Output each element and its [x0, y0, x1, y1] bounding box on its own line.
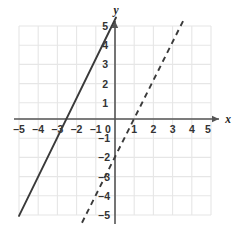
x-tick-label--4: –4 — [32, 123, 44, 135]
figure-background — [0, 0, 240, 232]
x-tick-label--5: –5 — [13, 123, 25, 135]
y-axis-label: y — [111, 4, 119, 17]
y-tick-label--4: –4 — [98, 190, 110, 202]
x-tick-label-1: 1 — [131, 123, 137, 135]
x-axis-label: x — [224, 113, 231, 125]
x-tick-label-5: 5 — [205, 123, 211, 135]
y-tick-label--2: –2 — [98, 151, 110, 163]
x-tick-label-4: 4 — [189, 123, 195, 135]
x-tick-label-2: 2 — [150, 123, 156, 135]
coordinate-plane-figure: –5 –4 –3 –2 –1 0 1 2 3 4 5 5 4 3 2 1 –1 … — [0, 0, 240, 232]
y-tick-label-3: 3 — [102, 58, 108, 70]
y-tick-label-5: 5 — [102, 20, 108, 32]
y-tick-label--5: –5 — [98, 209, 110, 221]
y-tick-label--1: –1 — [98, 132, 110, 144]
graph-svg: –5 –4 –3 –2 –1 0 1 2 3 4 5 5 4 3 2 1 –1 … — [0, 0, 240, 232]
x-tick-label--2: –2 — [71, 123, 83, 135]
y-tick-label-2: 2 — [102, 78, 108, 90]
y-tick-label-1: 1 — [102, 97, 108, 109]
x-tick-label-3: 3 — [170, 123, 176, 135]
